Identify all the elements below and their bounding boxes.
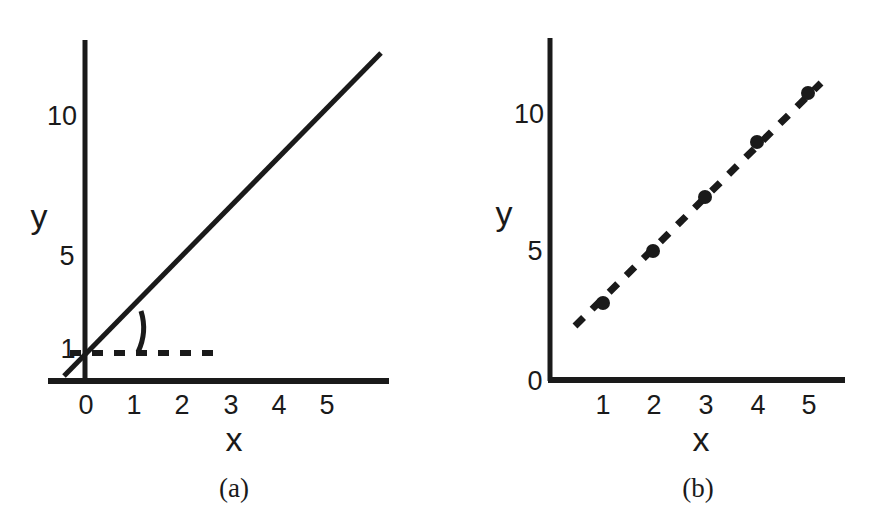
panel-b-data-point [698, 190, 712, 204]
panel-a-regression-line [64, 53, 381, 376]
panel-a-x-axis-label: x [226, 422, 243, 456]
panel-a-y-tick-5: 5 [59, 243, 74, 270]
panel-b-graphics [450, 0, 894, 523]
panel-a-x-tick-3: 3 [223, 392, 238, 419]
panel-b-y-tick-10: 10 [514, 101, 544, 128]
panel-b-y-axis-label: y [496, 196, 513, 230]
panel-a-y-tick-1: 1 [60, 336, 75, 363]
panel-b-data-point [801, 86, 815, 100]
panel-b-x-tick-4: 4 [750, 392, 765, 419]
panel-b-caption: (b) [682, 475, 713, 502]
panel-b-x-axis-label: x [693, 422, 710, 456]
panel-a-caption: (a) [219, 475, 249, 502]
panel-b-data-point [750, 135, 764, 149]
panel-b-y-tick-5: 5 [527, 238, 542, 265]
panel-a-x-tick-4: 4 [271, 392, 286, 419]
figure-container: 10 5 1 y 0 1 2 3 4 5 x (a) [0, 0, 894, 523]
panel-b: 10 5 0 y 1 2 3 4 5 x (b) [450, 0, 894, 523]
panel-b-x-tick-1: 1 [595, 392, 610, 419]
panel-b-fitted-line [575, 83, 821, 326]
panel-b-data-point [646, 244, 660, 258]
panel-a: 10 5 1 y 0 1 2 3 4 5 x (a) [0, 0, 450, 523]
panel-a-angle-arc [138, 311, 144, 352]
panel-a-y-tick-10: 10 [47, 103, 77, 130]
panel-b-x-tick-5: 5 [801, 392, 816, 419]
panel-a-y-axis-label: y [31, 199, 48, 233]
panel-a-x-tick-1: 1 [126, 392, 141, 419]
panel-a-x-tick-2: 2 [174, 392, 189, 419]
panel-b-data-point [596, 296, 610, 310]
panel-b-x-tick-2: 2 [646, 392, 661, 419]
panel-b-x-tick-3: 3 [698, 392, 713, 419]
panel-a-x-tick-5: 5 [319, 392, 334, 419]
panel-b-y-tick-0: 0 [527, 368, 542, 395]
panel-a-x-tick-0: 0 [78, 392, 93, 419]
